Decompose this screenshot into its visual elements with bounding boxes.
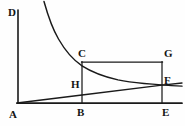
chord-line-AF [17, 83, 182, 103]
vertex-label-C: C [78, 48, 86, 59]
hyperbola-diagram: D A C H B G F E [0, 0, 185, 126]
vertex-label-B: B [77, 107, 84, 118]
diagram-canvas [0, 0, 185, 126]
vertex-label-A: A [9, 109, 17, 120]
vertex-label-H: H [71, 79, 80, 90]
hyperbola-curve [44, 2, 182, 87]
vertex-label-D: D [8, 7, 16, 18]
vertex-label-G: G [164, 48, 173, 59]
vertex-label-F: F [164, 75, 171, 86]
vertex-label-E: E [162, 107, 169, 118]
